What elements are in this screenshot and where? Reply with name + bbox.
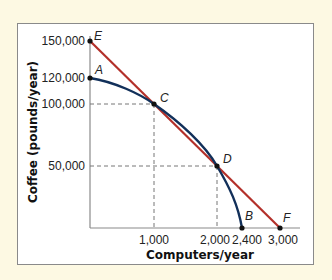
guide-lines	[90, 104, 217, 228]
point-f	[277, 225, 282, 230]
x-tick-2400: 2,400	[232, 233, 262, 247]
y-axis-label: Coffee (pounds/year)	[26, 61, 40, 203]
y-tick-150000: 150,000	[42, 34, 86, 48]
point-c	[151, 101, 156, 106]
label-a: A	[94, 63, 103, 77]
point-b	[239, 225, 244, 230]
point-e	[87, 38, 92, 43]
x-tick-1000: 1,000	[139, 233, 169, 247]
label-b: B	[245, 209, 253, 223]
label-f: F	[283, 211, 291, 225]
x-tick-2000: 2,000	[200, 233, 230, 247]
x-tick-3000: 3,000	[268, 233, 298, 247]
y-tick-100000: 100,000	[42, 97, 86, 111]
point-d	[214, 163, 219, 168]
ef-line	[90, 41, 280, 228]
chart-svg: E A C D B F 150,000 120,000 100,000 50,0…	[0, 0, 332, 280]
point-a	[87, 75, 92, 80]
label-d: D	[223, 152, 232, 166]
label-c: C	[160, 91, 169, 105]
y-tick-120000: 120,000	[42, 71, 86, 85]
y-tick-50000: 50,000	[48, 159, 85, 173]
x-axis-label: Computers/year	[146, 248, 254, 262]
label-e: E	[94, 29, 103, 43]
